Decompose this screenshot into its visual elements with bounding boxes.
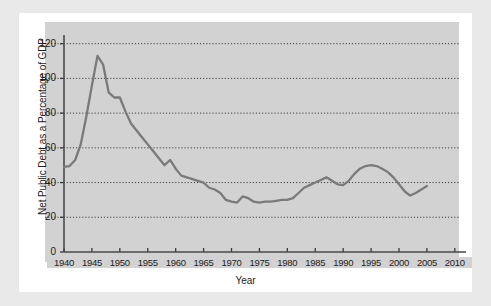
figure-card: 020406080100120 194019451950195519601965… [19, 13, 472, 292]
data-series-line [64, 56, 427, 203]
x-tick-label-2010: 2010 [438, 257, 472, 268]
y-tick-label-0: 0 [26, 246, 56, 257]
gridlines-group [45, 44, 459, 218]
x-axis-title: Year [19, 275, 472, 286]
y-axis-title: Net Public Debt as a Percentage of GDP [37, 37, 48, 217]
chart-canvas [19, 13, 472, 292]
figure-root: 020406080100120 194019451950195519601965… [0, 0, 491, 306]
